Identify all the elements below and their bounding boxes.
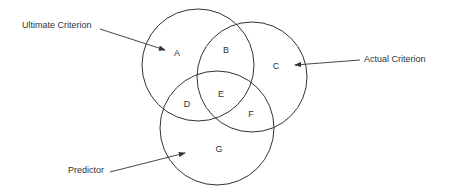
actual-criterion-label: Actual Criterion — [364, 54, 426, 64]
region-b: B — [223, 45, 229, 55]
ultimate-criterion-label: Ultimate Criterion — [22, 20, 92, 30]
region-d: D — [184, 99, 191, 109]
region-c: C — [273, 61, 280, 71]
region-e: E — [218, 89, 224, 99]
predictor-label: Predictor — [68, 165, 104, 175]
ultimate-criterion-arrow — [100, 29, 165, 50]
region-f: F — [248, 109, 254, 119]
region-a: A — [174, 48, 180, 58]
region-g: G — [215, 144, 222, 154]
predictor-arrow — [110, 153, 185, 172]
